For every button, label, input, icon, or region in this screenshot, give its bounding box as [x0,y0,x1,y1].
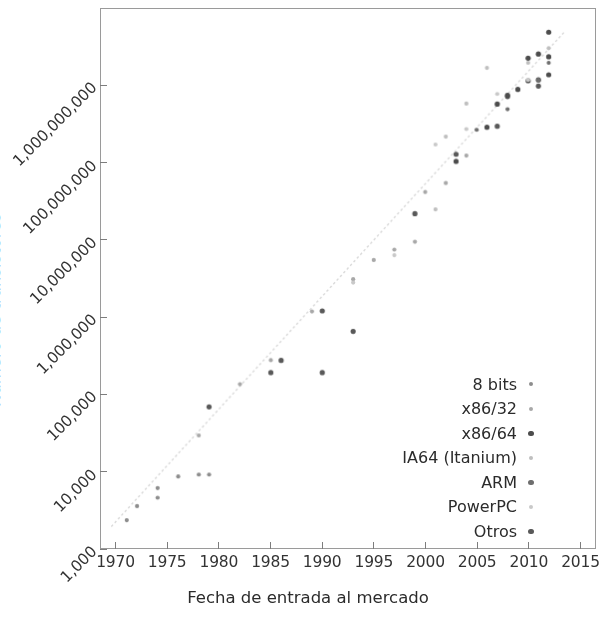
legend-entry-label: Otros [474,522,517,541]
legend-marker-icon [517,529,545,534]
legend-marker-icon [517,431,545,436]
y-axis-tick-label: 10,000 [50,465,100,515]
legend-entry[interactable]: IA64 (Itanium) [330,446,545,471]
x-axis-tick-label: 2010 [510,553,549,571]
x-axis-tick-label: 1970 [96,553,135,571]
legend-dot [529,456,533,460]
legend-entry[interactable]: ARM [330,470,545,495]
legend-entry[interactable]: x86/32 [330,397,545,422]
legend-marker-icon [517,407,545,411]
y-axis-tick [100,317,107,318]
legend-marker-icon [517,456,545,460]
legend-entry-label: x86/32 [461,399,517,418]
y-axis-tick-label: 10,000,000 [26,233,100,307]
legend-entry-label: IA64 (Itanium) [402,448,517,467]
y-axis-tick-label: 1,000 [57,543,100,586]
legend-dot [529,382,533,386]
legend-entry-label: ARM [481,473,517,492]
y-axis-tick [100,549,107,550]
y-axis-tick-label: 1,000,000 [33,311,100,378]
legend-dot [528,431,533,436]
moores-law-scatter-figure: Número de transistores 19701975198019851… [0,0,616,619]
legend-entry[interactable]: PowerPC [330,495,545,520]
legend-entry-label: 8 bits [473,375,517,394]
series-legend: 8 bitsx86/32x86/64IA64 (Itanium)ARMPower… [330,372,545,544]
x-axis-tick-label: 1980 [200,553,239,571]
x-axis-tick-label: 1985 [251,553,290,571]
x-axis-tick-label: 1995 [355,553,394,571]
x-axis-tick-label: 1990 [303,553,342,571]
y-axis-title: Número de transistores [0,213,4,407]
legend-marker-icon [517,480,545,485]
legend-entry[interactable]: Otros [330,519,545,544]
legend-dot [529,407,533,411]
legend-marker-icon [517,382,545,386]
y-axis-tick [100,85,107,86]
x-axis-tick [580,542,581,549]
x-axis-tick [115,542,116,549]
legend-entry-label: x86/64 [461,424,517,443]
legend-dot [528,529,533,534]
x-axis-title: Fecha de entrada al mercado [0,588,616,607]
x-axis-tick-label: 2015 [561,553,600,571]
y-axis-tick [100,394,107,395]
x-axis-tick [218,542,219,549]
x-axis-tick-label: 2000 [406,553,445,571]
legend-entry[interactable]: x86/64 [330,421,545,446]
legend-dot [528,480,533,485]
legend-entry-label: PowerPC [448,497,517,516]
x-axis-tick-label: 1975 [148,553,187,571]
x-axis-tick [270,542,271,549]
y-axis-tick-label: 100,000 [43,388,100,445]
legend-entry[interactable]: 8 bits [330,372,545,397]
y-axis-tick-label: 100,000,000 [19,156,100,237]
x-axis-tick [167,542,168,549]
y-axis-tick [100,471,107,472]
legend-dot [529,505,533,509]
y-axis-tick [100,162,107,163]
x-axis-tick-label: 2005 [458,553,497,571]
legend-marker-icon [517,505,545,509]
x-axis-tick [322,542,323,549]
y-axis-tick [100,239,107,240]
